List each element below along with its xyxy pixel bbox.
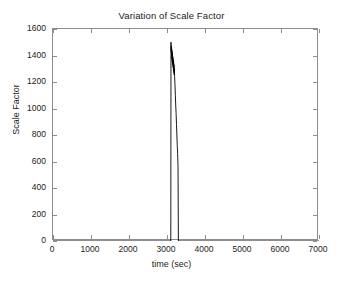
y-tick-right-1400 <box>313 56 317 57</box>
chart-title: Variation of Scale Factor <box>0 10 343 22</box>
x-tick-2000 <box>129 235 130 239</box>
y-axis-label: Scale Factor <box>11 70 22 150</box>
plot-axes-area <box>52 28 318 240</box>
series-scale-factor <box>53 42 319 241</box>
y-tick-right-200 <box>313 215 317 216</box>
x-tick-label-1000: 1000 <box>70 244 110 254</box>
y-tick-right-600 <box>313 162 317 163</box>
x-tick-top-6000 <box>281 29 282 33</box>
y-tick-800 <box>53 135 57 136</box>
y-tick-1200 <box>53 82 57 83</box>
y-tick-200 <box>53 215 57 216</box>
x-tick-1000 <box>91 235 92 239</box>
x-tick-top-5000 <box>243 29 244 33</box>
y-tick-right-800 <box>313 135 317 136</box>
x-tick-top-2000 <box>129 29 130 33</box>
y-tick-600 <box>53 162 57 163</box>
data-series-plot <box>53 29 319 241</box>
y-tick-right-1000 <box>313 109 317 110</box>
y-tick-right-1600 <box>313 29 317 30</box>
x-tick-top-4000 <box>205 29 206 33</box>
x-tick-4000 <box>205 235 206 239</box>
x-tick-top-7000 <box>319 29 320 33</box>
series-line-0 <box>53 42 319 241</box>
y-tick-1000 <box>53 109 57 110</box>
x-axis-label: time (sec) <box>0 259 343 270</box>
x-tick-label-4000: 4000 <box>184 244 224 254</box>
figure-canvas: Variation of Scale Factor 01000200030004… <box>0 0 343 285</box>
x-tick-5000 <box>243 235 244 239</box>
y-tick-right-1200 <box>313 82 317 83</box>
y-tick-label-1400: 1400 <box>4 50 46 60</box>
y-tick-right-0 <box>313 241 317 242</box>
x-tick-label-7000: 7000 <box>298 244 338 254</box>
y-tick-400 <box>53 188 57 189</box>
y-tick-label-200: 200 <box>4 209 46 219</box>
x-tick-top-1000 <box>91 29 92 33</box>
y-tick-label-1600: 1600 <box>4 23 46 33</box>
x-tick-top-3000 <box>167 29 168 33</box>
x-tick-6000 <box>281 235 282 239</box>
y-tick-1400 <box>53 56 57 57</box>
y-tick-label-600: 600 <box>4 156 46 166</box>
y-tick-label-0: 0 <box>4 235 46 245</box>
y-tick-right-400 <box>313 188 317 189</box>
x-tick-label-3000: 3000 <box>146 244 186 254</box>
x-tick-3000 <box>167 235 168 239</box>
x-tick-label-2000: 2000 <box>108 244 148 254</box>
y-tick-label-400: 400 <box>4 182 46 192</box>
x-tick-label-5000: 5000 <box>222 244 262 254</box>
y-tick-1600 <box>53 29 57 30</box>
x-tick-7000 <box>319 235 320 239</box>
x-tick-label-0: 0 <box>32 244 72 254</box>
x-tick-0 <box>53 235 54 239</box>
x-tick-label-6000: 6000 <box>260 244 300 254</box>
y-tick-0 <box>53 241 57 242</box>
